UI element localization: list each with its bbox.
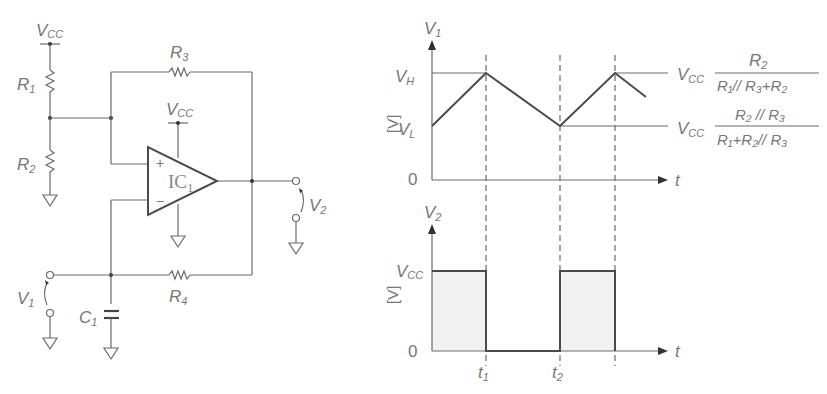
svg-text:R₂ // R₃: R₂ // R₃ (735, 106, 785, 123)
svg-text:R₁+R₂// R₃: R₁+R₂// R₃ (717, 131, 787, 148)
svg-text:IC1: IC1 (168, 171, 194, 195)
svg-text:R1: R1 (17, 75, 35, 95)
svg-text:t: t (675, 342, 681, 361)
svg-text:VH: VH (395, 67, 414, 87)
output-terminal-v2: V2 (289, 178, 326, 255)
svg-text:R₁// R₃+R₂: R₁// R₃+R₂ (717, 77, 787, 94)
ground-icon (171, 236, 185, 247)
vh-formula: VCC R2 R₁// R₃+R₂ (677, 51, 819, 94)
schmitt-oscillator-circuit: VCC R1 R2 R3 (17, 21, 326, 359)
svg-text:VCC: VCC (677, 119, 704, 139)
ground-icon (289, 243, 303, 254)
vl-formula: VCC R₂ // R₃ R₁+R₂// R₃ (677, 106, 819, 148)
svg-text:C1: C1 (79, 308, 97, 328)
svg-text:V2: V2 (309, 196, 326, 216)
svg-text:VCC: VCC (166, 100, 193, 119)
chart-v2-square: V2 VCC 0 t [V] t1 t2 (384, 203, 681, 383)
svg-text:VCC: VCC (396, 262, 423, 281)
svg-text:V1: V1 (424, 19, 441, 39)
svg-text:t2: t2 (552, 363, 563, 383)
ground-icon (43, 195, 57, 206)
svg-text:R2: R2 (749, 51, 767, 71)
figure-canvas: VCC R1 R2 R3 (0, 0, 827, 394)
resistor-r3: R3 (111, 43, 252, 76)
svg-text:VCC: VCC (36, 21, 63, 40)
svg-text:−: − (156, 193, 164, 209)
vcc-supply-top: VCC (36, 21, 63, 46)
svg-text:t1: t1 (478, 363, 489, 383)
resistor-r1: R1 (17, 44, 54, 118)
svg-text:R3: R3 (170, 43, 189, 63)
svg-text:VCC: VCC (677, 65, 704, 85)
resistor-r2: R2 (17, 118, 54, 195)
terminal-v1: V1 (17, 272, 57, 350)
svg-text:V2: V2 (424, 203, 441, 223)
resistor-r4: R4 (111, 271, 252, 307)
svg-text:t: t (675, 171, 681, 190)
ground-icon (43, 338, 57, 349)
svg-text:0: 0 (408, 170, 417, 189)
capacitor-c1: C1 (79, 308, 119, 359)
svg-text:+: + (156, 155, 164, 171)
svg-text:0: 0 (408, 342, 417, 361)
svg-text:R4: R4 (169, 287, 187, 307)
svg-text:R2: R2 (17, 155, 35, 175)
svg-text:V1: V1 (17, 289, 34, 309)
svg-text:[V]: [V] (384, 286, 401, 304)
opamp-ic1: + − IC1 VCC (148, 100, 217, 247)
ground-icon (104, 348, 118, 359)
svg-text:[V]: [V] (384, 115, 401, 133)
